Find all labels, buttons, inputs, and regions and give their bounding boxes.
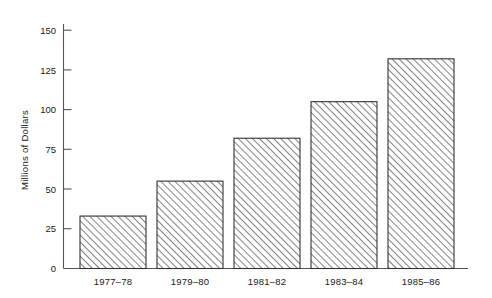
- bar-1983-84: [311, 102, 377, 269]
- x-tick-label-1983-84: 1983–84: [325, 276, 363, 287]
- bar-1977-78: [80, 216, 146, 268]
- y-tick-label-0: 0: [51, 263, 56, 274]
- y-tick-label-125: 125: [40, 65, 56, 76]
- x-tick-label-1979-80: 1979–80: [171, 276, 209, 287]
- x-tick-label-1981-82: 1981–82: [248, 276, 286, 287]
- bar-1979-80: [157, 181, 223, 268]
- x-tick-label-1985-86: 1985–86: [402, 276, 440, 287]
- y-axis-title: Millions of Dollars: [19, 110, 30, 190]
- y-tick-label-150: 150: [40, 25, 56, 36]
- bar-1981-82: [234, 138, 300, 268]
- y-tick-label-75: 75: [45, 144, 56, 155]
- chart-canvas: 150 125 100 75 50 25 0 Millions of Dolla…: [0, 0, 492, 298]
- y-tick-label-25: 25: [45, 223, 56, 234]
- bar-chart-figure: 150 125 100 75 50 25 0 Millions of Dolla…: [0, 0, 492, 298]
- bar-1985-86: [388, 59, 454, 269]
- y-tick-label-50: 50: [45, 184, 56, 195]
- y-tick-label-100: 100: [40, 104, 56, 115]
- x-tick-label-1977-78: 1977–78: [94, 276, 132, 287]
